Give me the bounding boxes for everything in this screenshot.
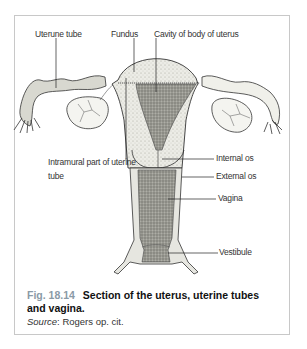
figure-number: Fig. 18.14 (27, 289, 75, 301)
figure-source: Source: Rogers op. cit. (27, 316, 124, 327)
figure-caption: Fig. 18.14Section of the uterus, uterine… (27, 289, 267, 315)
source-text: : Rogers op. cit. (57, 316, 124, 327)
left-ovary (67, 97, 108, 129)
label-fundus: Fundus (111, 29, 138, 39)
label-cavity: Cavity of body of uterus (154, 29, 239, 39)
label-uterine-tube: Uterune tube (35, 29, 82, 39)
right-ovary (212, 98, 252, 132)
source-label: Source (27, 316, 57, 327)
label-vagina: Vagina (218, 193, 243, 203)
label-intramural-1: Intramural part of uterine (48, 157, 136, 167)
label-vestibule: Vestibule (219, 247, 252, 257)
label-internal-os: Internal os (216, 153, 254, 163)
label-external-os: External os (216, 171, 256, 181)
label-intramural-2: tube (48, 171, 64, 181)
